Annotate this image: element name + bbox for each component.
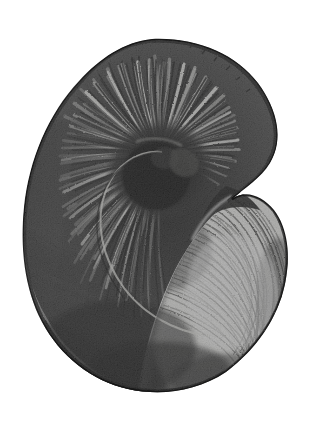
nautilus-shell-illustration [0, 0, 314, 428]
engraving-plate: Nautilus shell wood engraving / halftone… [0, 0, 314, 428]
